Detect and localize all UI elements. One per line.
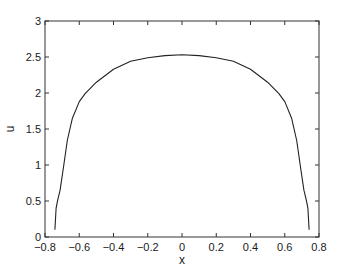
x-axis-ticks: −0.8−0.6−0.4−0.200.20.40.60.8	[34, 21, 327, 253]
x-tick-label: −0.4	[103, 241, 125, 253]
y-tick-label: 2.5	[26, 51, 41, 63]
y-tick-label: 1.5	[26, 123, 41, 135]
x-axis-label: x	[179, 253, 185, 267]
y-tick-label: 0	[35, 231, 41, 243]
x-tick-label: 0.6	[277, 241, 292, 253]
y-tick-label: 1	[35, 159, 41, 171]
plot-area	[45, 21, 319, 237]
y-tick-label: 3	[35, 15, 41, 27]
chart: −0.8−0.6−0.4−0.200.20.40.60.8 00.511.522…	[0, 0, 339, 277]
x-tick-label: 0.8	[311, 241, 326, 253]
x-tick-label: 0	[179, 241, 185, 253]
y-tick-label: 0.5	[26, 195, 41, 207]
x-tick-label: −0.6	[68, 241, 90, 253]
x-tick-label: −0.2	[137, 241, 159, 253]
series-line-0	[55, 55, 309, 230]
axes-frame	[45, 21, 319, 237]
y-axis-label: u	[3, 126, 17, 133]
x-tick-label: 0.4	[243, 241, 258, 253]
y-tick-label: 2	[35, 87, 41, 99]
x-tick-label: 0.2	[209, 241, 224, 253]
